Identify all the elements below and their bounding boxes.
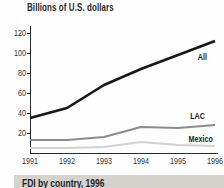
series-label-all: All: [41, 52, 207, 62]
y-tick-label: 100: [5, 48, 26, 58]
y-tick-label: 80: [5, 68, 26, 78]
x-tick-label: 1996: [204, 156, 224, 166]
series-label-lac: LAC: [41, 111, 205, 121]
y-tick-label: 60: [5, 88, 26, 98]
y-tick-label: 120: [5, 28, 26, 38]
x-tick-label: 1992: [56, 156, 78, 166]
section-header-title: FDI by country, 1996: [22, 178, 194, 188]
series-label-mexico: Mexico: [43, 134, 213, 144]
section-header-bar: FDI by country, 1996: [14, 175, 224, 188]
x-tick-label: 1993: [93, 156, 115, 166]
line-chart: 20406080100120199119921993199419951996Al…: [0, 0, 224, 170]
x-tick-label: 1995: [167, 156, 189, 166]
x-tick-label: 1994: [130, 156, 152, 166]
y-tick-label: 20: [5, 128, 26, 138]
plot-svg: [0, 0, 224, 170]
x-tick-label: 1991: [19, 156, 41, 166]
y-tick-label: 40: [5, 108, 26, 118]
